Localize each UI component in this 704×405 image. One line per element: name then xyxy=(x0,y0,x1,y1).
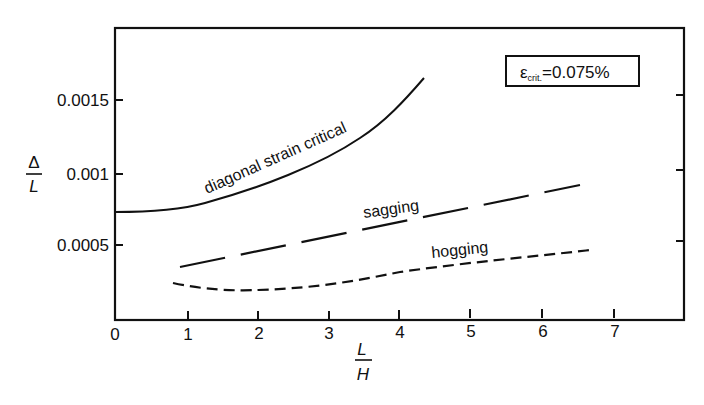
curve-diagonal-strain-critical xyxy=(115,78,424,212)
x-label-numerator: L xyxy=(357,340,366,359)
epsilon-subscript: crit. xyxy=(528,73,543,83)
x-tick-3: 3 xyxy=(324,324,333,343)
y-label-numerator: Δ xyxy=(28,153,39,172)
label-sagging: sagging xyxy=(362,196,420,221)
x-axis-label: L H xyxy=(355,340,372,384)
x-axis-ticks xyxy=(188,309,614,320)
strain-annotation-box: εcrit.=0.075% xyxy=(506,56,639,86)
chart-canvas: 0.0015 0.001 0.0005 0 1 2 3 4 5 6 7 Δ L … xyxy=(0,0,704,405)
x-tick-6: 6 xyxy=(538,322,547,341)
y-tick-0.001: 0.001 xyxy=(66,165,109,184)
x-tick-4: 4 xyxy=(395,323,404,342)
y-axis-label: Δ L xyxy=(26,153,42,196)
x-tick-7: 7 xyxy=(610,322,619,341)
y-tick-labels: 0.0015 0.001 0.0005 xyxy=(57,91,109,255)
curve-hogging xyxy=(173,250,590,290)
label-hogging: hogging xyxy=(431,238,489,261)
curve-sagging xyxy=(180,185,580,267)
y-tick-0.0015: 0.0015 xyxy=(57,91,109,110)
x-tick-5: 5 xyxy=(466,322,475,341)
y-tick-0.0005: 0.0005 xyxy=(57,236,109,255)
y-label-denominator: L xyxy=(29,177,38,196)
x-tick-0: 0 xyxy=(110,325,119,344)
strain-value: =0.075% xyxy=(542,63,610,82)
x-tick-1: 1 xyxy=(183,325,192,344)
x-label-denominator: H xyxy=(357,365,370,384)
x-tick-2: 2 xyxy=(254,324,263,343)
